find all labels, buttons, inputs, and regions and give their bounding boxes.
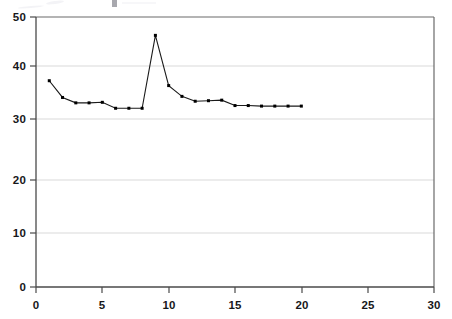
plot-area: [0, 0, 452, 319]
x-axis-label-20: 20: [292, 299, 312, 311]
data-point: [180, 95, 183, 98]
x-axis-label-10: 10: [159, 299, 179, 311]
data-point: [207, 99, 210, 102]
scan-artifact-line: [122, 2, 156, 4]
x-axis-label-5: 5: [92, 299, 112, 311]
data-point: [220, 99, 223, 102]
x-axis-label-25: 25: [358, 299, 378, 311]
x-axis-label-0: 0: [26, 299, 46, 311]
data-point: [127, 107, 130, 110]
data-point: [141, 107, 144, 110]
plot-frame: [36, 17, 434, 287]
data-point: [300, 105, 303, 108]
y-axis-label-10: 10: [4, 227, 26, 239]
data-point-markers: [48, 34, 303, 110]
data-point: [287, 105, 290, 108]
data-point: [194, 100, 197, 103]
y-axis-label-20: 20: [4, 174, 26, 186]
scan-artifact-speck: [112, 0, 117, 7]
y-axis-label-50: 50: [4, 11, 26, 23]
y-axis-label-0: 0: [4, 281, 26, 293]
x-axis-label-30: 30: [424, 299, 444, 311]
data-point: [48, 79, 51, 82]
data-point: [234, 104, 237, 107]
data-point: [88, 101, 91, 104]
data-point: [74, 101, 77, 104]
y-axis-label-40: 40: [4, 60, 26, 72]
data-series-line: [49, 35, 301, 108]
data-point: [247, 104, 250, 107]
data-point: [154, 34, 157, 37]
data-point: [61, 96, 64, 99]
x-axis-ticks: [36, 287, 434, 293]
y-axis-ticks: [30, 17, 36, 287]
gridlines: [36, 66, 434, 233]
data-point: [101, 101, 104, 104]
y-axis-label-30: 30: [4, 113, 26, 125]
data-point: [260, 105, 263, 108]
data-point: [167, 84, 170, 87]
line-chart: 50 40 30 20 10 0 0 5 10 15 20 25 30: [0, 0, 452, 319]
data-point: [114, 107, 117, 110]
data-point: [273, 105, 276, 108]
x-axis-label-15: 15: [225, 299, 245, 311]
